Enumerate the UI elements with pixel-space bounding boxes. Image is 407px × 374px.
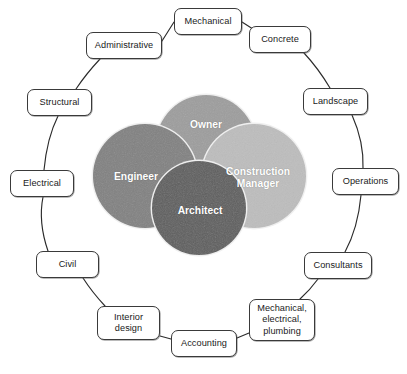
node-label-interior-design: Interior design xyxy=(111,312,146,335)
node-label-accounting: Accounting xyxy=(178,338,230,350)
node-label-structural: Structural xyxy=(37,97,83,109)
node-box-structural[interactable]: Structural xyxy=(27,89,92,116)
node-box-civil[interactable]: Civil xyxy=(36,251,99,278)
node-box-consultants[interactable]: Consultants xyxy=(304,252,372,279)
diagram-canvas: OwnerConstruction ManagerEngineerArchite… xyxy=(0,0,407,374)
node-label-administrative: Administrative xyxy=(92,40,156,52)
node-label-mechanical: Mechanical xyxy=(182,16,235,28)
node-label-landscape: Landscape xyxy=(310,96,361,108)
node-label-operations: Operations xyxy=(340,176,391,188)
node-box-interior-design[interactable]: Interior design xyxy=(97,306,160,340)
node-box-mechanical[interactable]: Mechanical xyxy=(174,8,242,35)
node-label-civil: Civil xyxy=(56,259,80,271)
circle-architect[interactable] xyxy=(152,161,246,255)
node-box-operations[interactable]: Operations xyxy=(332,168,399,195)
node-box-accounting[interactable]: Accounting xyxy=(171,330,237,357)
node-label-electrical: Electrical xyxy=(20,178,64,190)
node-label-mep: Mechanical, electrical, plumbing xyxy=(254,303,310,338)
node-box-landscape[interactable]: Landscape xyxy=(303,88,368,115)
node-box-electrical[interactable]: Electrical xyxy=(10,170,74,197)
node-label-consultants: Consultants xyxy=(310,260,365,272)
node-box-concrete[interactable]: Concrete xyxy=(249,26,311,53)
node-box-administrative[interactable]: Administrative xyxy=(86,32,162,59)
node-label-concrete: Concrete xyxy=(258,34,302,46)
node-box-mep[interactable]: Mechanical, electrical, plumbing xyxy=(249,299,315,341)
